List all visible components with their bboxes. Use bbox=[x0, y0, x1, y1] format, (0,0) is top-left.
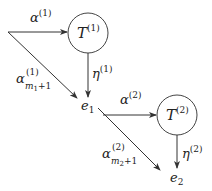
node-T1 bbox=[68, 13, 108, 53]
edge-label-alpha-m2-sub: m2+1 bbox=[111, 156, 137, 168]
node-e2-label: e2 bbox=[170, 170, 183, 187]
node-T2 bbox=[157, 95, 197, 135]
edge-label-alpha1: α(1) bbox=[30, 8, 52, 25]
edge-label-alpha-m1-sub: m1+1 bbox=[25, 81, 51, 93]
edge-label-eta2: η(2) bbox=[182, 144, 203, 161]
edge-label-alpha-m2-sup: (2) bbox=[112, 142, 125, 152]
edge-label-alpha2: α(2) bbox=[120, 90, 142, 107]
edge-label-alpha-m1-sup: (1) bbox=[26, 67, 39, 77]
edge-label-alpha-m2: α bbox=[102, 146, 111, 161]
node-e1-label: e1 bbox=[81, 98, 94, 115]
edge-label-eta1: η(1) bbox=[92, 64, 113, 81]
edge-label-alpha-m1: α bbox=[16, 71, 25, 86]
flow-diagram: α(1) α (1) m1+1 T(1) η(1) e1 α(2) α (2) … bbox=[0, 0, 212, 191]
